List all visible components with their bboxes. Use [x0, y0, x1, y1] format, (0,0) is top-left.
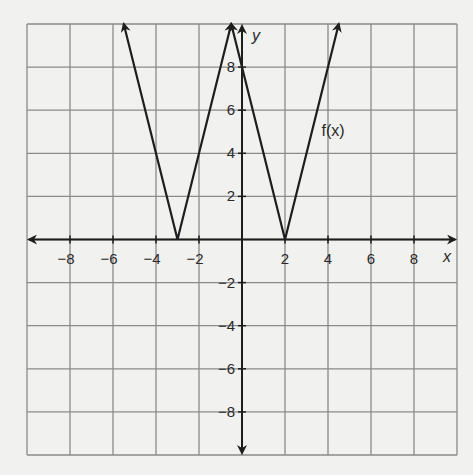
tick-labels: −8−6−4−224688642−2−4−6−8xy — [57, 27, 452, 420]
coordinate-plane: −8−6−4−224688642−2−4−6−8xy f(x) — [0, 0, 473, 475]
y-tick-label: −4 — [218, 317, 235, 334]
x-axis-label: x — [442, 248, 452, 265]
y-tick-label: 2 — [227, 187, 235, 204]
x-tick-label: 8 — [410, 250, 418, 267]
function-branch — [124, 24, 232, 240]
annotations: f(x) — [322, 122, 345, 139]
y-tick-label: 8 — [227, 58, 235, 75]
x-tick-label: 2 — [281, 250, 289, 267]
y-axis-label: y — [251, 27, 261, 44]
y-tick-label: −6 — [218, 360, 235, 377]
y-tick-label: −2 — [218, 274, 235, 291]
x-tick-label: 6 — [367, 250, 375, 267]
y-tick-label: −8 — [218, 403, 235, 420]
x-tick-label: −6 — [100, 250, 117, 267]
x-tick-label: 4 — [324, 250, 332, 267]
x-tick-label: −2 — [186, 250, 203, 267]
x-tick-label: −8 — [57, 250, 74, 267]
y-tick-label: 4 — [227, 144, 235, 161]
x-tick-label: −4 — [143, 250, 160, 267]
function-label: f(x) — [322, 122, 345, 139]
y-tick-label: 6 — [227, 101, 235, 118]
axes — [29, 26, 455, 453]
